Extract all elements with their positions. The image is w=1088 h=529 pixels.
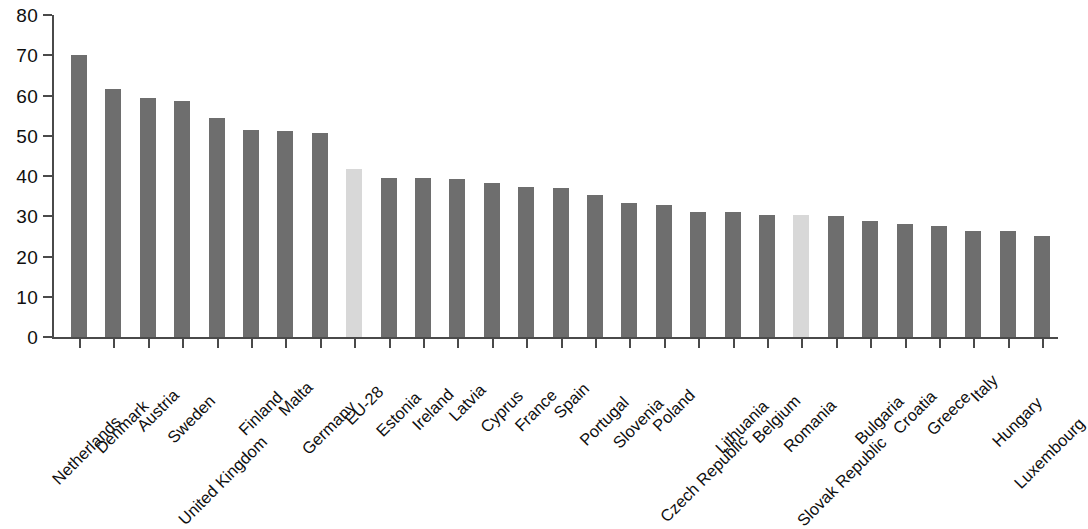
bar: [897, 224, 913, 337]
x-axis-tick-mark: [905, 339, 907, 348]
bar: [621, 203, 637, 337]
x-axis-tick-label: Austria: [134, 386, 182, 434]
bar: [71, 55, 87, 337]
x-axis-tick-label: Slovenia: [610, 395, 666, 451]
x-axis-tick-label: Malta: [276, 379, 316, 419]
y-axis-tick-mark: [43, 135, 52, 137]
x-axis-tick-label: Romania: [781, 397, 839, 455]
x-axis-tick-label: EU-28: [342, 383, 387, 428]
x-axis-tick-mark: [526, 339, 528, 348]
x-axis-tick-label: Finland: [236, 388, 286, 438]
y-axis: 01020304050607080: [0, 0, 52, 464]
x-axis-tick-mark: [973, 339, 975, 348]
x-axis-tick-label: Italy: [968, 371, 1001, 404]
bar: [484, 183, 500, 337]
y-axis-tick-mark: [43, 54, 52, 56]
x-axis-tick-label: Slovak Republic: [794, 434, 889, 529]
x-axis-tick-mark: [1008, 339, 1010, 348]
x-axis-tick-label: Lithuania: [712, 397, 771, 456]
x-axis-tick-label: Luxembourg: [1011, 415, 1088, 492]
x-axis-tick-mark: [182, 339, 184, 348]
bar: [312, 133, 328, 337]
y-axis-tick-label: 80: [16, 6, 38, 25]
y-axis-tick-label: 20: [16, 247, 38, 266]
bar: [346, 169, 362, 337]
y-axis-tick-label: 10: [16, 287, 38, 306]
x-axis-tick-mark: [733, 339, 735, 348]
x-axis-tick-label: Netherlands: [49, 413, 124, 488]
x-axis-tick-mark: [939, 339, 941, 348]
x-axis-tick-mark: [561, 339, 563, 348]
x-axis-tick-mark: [698, 339, 700, 348]
x-axis-tick-label: France: [512, 386, 560, 434]
x-axis-tick-label: Ireland: [409, 386, 456, 433]
y-axis-tick-mark: [43, 296, 52, 298]
bar: [243, 130, 259, 337]
bar: [587, 195, 603, 337]
bar: [862, 221, 878, 337]
y-axis-tick-label: 70: [16, 46, 38, 65]
x-axis-tick-mark: [148, 339, 150, 348]
x-axis-tick-label: Sweden: [164, 392, 218, 446]
bar: [209, 118, 225, 337]
x-axis-tick-label: Poland: [650, 386, 698, 434]
bar: [1034, 236, 1050, 337]
x-axis-tick-mark: [836, 339, 838, 348]
y-axis-tick-mark: [43, 14, 52, 16]
y-axis-tick-mark: [43, 95, 52, 97]
bar: [656, 205, 672, 337]
bar: [140, 98, 156, 337]
bar: [553, 188, 569, 337]
bar: [690, 212, 706, 337]
y-axis-tick-label: 40: [16, 167, 38, 186]
y-axis-tick-label: 60: [16, 86, 38, 105]
bar: [759, 215, 775, 337]
x-axis-tick-label: Hungary: [989, 394, 1045, 450]
bar: [828, 216, 844, 337]
x-axis-tick-mark: [354, 339, 356, 348]
x-axis-tick-label: Spain: [550, 380, 592, 422]
x-axis-tick-mark: [285, 339, 287, 348]
x-axis-tick-mark: [320, 339, 322, 348]
bar: [793, 215, 809, 337]
bar: [277, 131, 293, 337]
bar: [449, 179, 465, 337]
x-axis-tick-mark: [870, 339, 872, 348]
x-axis-tick-label: Estonia: [373, 389, 424, 440]
bar: [381, 178, 397, 337]
x-axis-tick-mark: [595, 339, 597, 348]
x-axis-tick-label: United Kingdom: [175, 433, 270, 528]
x-axis-tick-mark: [767, 339, 769, 348]
x-axis-tick-mark: [113, 339, 115, 348]
plot-area: [54, 15, 1058, 337]
x-axis-tick-label: Czech Republic: [657, 432, 750, 525]
bar: [518, 187, 534, 337]
bar: [965, 231, 981, 337]
y-axis-tick-mark: [43, 336, 52, 338]
x-axis-tick-label: Belgium: [749, 392, 803, 446]
x-axis-tick-label: Portugal: [577, 393, 632, 448]
bar: [105, 89, 121, 337]
x-axis-tick-mark: [457, 339, 459, 348]
bar: [1000, 231, 1016, 337]
x-axis-tick-label: Bulgaria: [852, 393, 906, 447]
x-axis-tick-mark: [629, 339, 631, 348]
x-axis-tick-mark: [801, 339, 803, 348]
y-axis-tick-mark: [43, 256, 52, 258]
x-axis-tick-label: Germany: [299, 398, 359, 458]
bar: [725, 212, 741, 337]
bar: [415, 178, 431, 337]
x-axis-tick-label: Latvia: [446, 381, 489, 424]
bar: [931, 226, 947, 337]
y-axis-tick-label: 30: [16, 207, 38, 226]
x-axis-line: [52, 337, 1058, 339]
x-axis-tick-label: Cyprus: [477, 387, 526, 436]
x-axis-tick-label: Croatia: [890, 388, 939, 437]
x-axis-tick-mark: [217, 339, 219, 348]
bar: [174, 101, 190, 337]
x-axis-tick-mark: [492, 339, 494, 348]
x-axis-tick-mark: [1042, 339, 1044, 348]
x-axis-tick-label: Greece: [924, 388, 974, 438]
x-axis-tick-mark: [389, 339, 391, 348]
